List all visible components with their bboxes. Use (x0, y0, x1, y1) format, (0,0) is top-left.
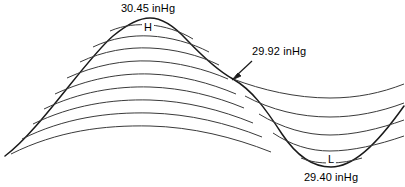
isobar-low-1 (233, 79, 404, 98)
high-pressure-value-label: 30.45 inHg (121, 2, 175, 14)
standard-pressure-value-label: 29.92 inHg (252, 45, 306, 57)
low-pressure-center-marker: L (326, 153, 336, 165)
isobar-high-9 (11, 126, 271, 154)
pressure-callout-arrow (232, 61, 252, 80)
high-pressure-center-marker: H (142, 21, 154, 33)
pressure-wave-drawing (0, 0, 405, 187)
isobar-high-5 (55, 74, 236, 94)
low-pressure-value-label: 29.40 inHg (304, 171, 358, 183)
arrow-head-icon (232, 73, 241, 80)
isobar-high-6 (44, 87, 244, 109)
diagram-canvas: 30.45 inHg H 29.92 inHg L 29.40 inHg (0, 0, 405, 187)
isobar-high-7 (33, 100, 253, 124)
outer-wave-curve (5, 18, 404, 167)
isobar-high-4 (67, 61, 228, 79)
